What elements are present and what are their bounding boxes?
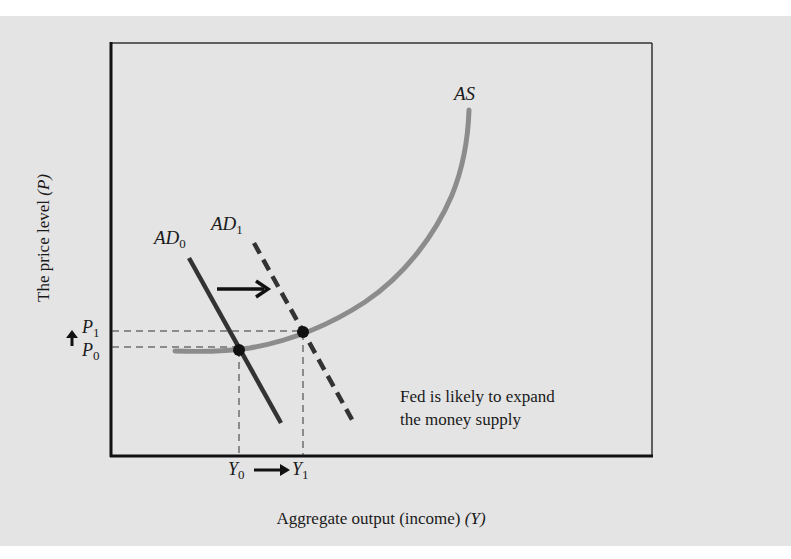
ad0-label: AD0 — [152, 227, 186, 251]
equilibrium-point-1 — [297, 326, 309, 338]
p0-label: P0 — [81, 340, 100, 363]
y-axis-label: The price level (P) — [34, 174, 53, 302]
ad0-curve — [189, 258, 281, 423]
ad-as-chart: AS AD0 AD1 P1 P0 Y0 Y1 Fed is likely to … — [0, 0, 791, 559]
annotation-line-1: Fed is likely to expand — [400, 387, 555, 406]
ad-shift-arrow-icon — [217, 281, 268, 297]
x-axis-label: Aggregate output (income) (Y) — [276, 509, 485, 528]
p1-label: P1 — [81, 317, 100, 340]
y1-label: Y1 — [292, 459, 309, 482]
price-up-arrow-icon — [66, 330, 78, 346]
equilibrium-point-0 — [233, 344, 245, 356]
annotation-line-2: the money supply — [400, 410, 521, 429]
as-label: AS — [452, 83, 476, 104]
ad1-label: AD1 — [209, 213, 243, 237]
y0-label: Y0 — [228, 459, 245, 482]
output-right-arrow-icon — [254, 464, 290, 476]
